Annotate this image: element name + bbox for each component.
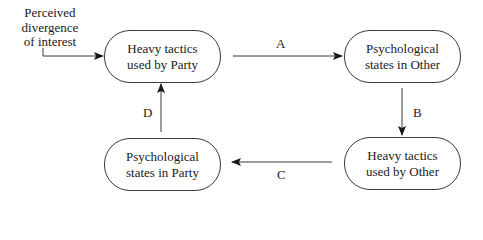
node-heavy-tactics-other: Heavy tactics used by Other [344, 137, 461, 190]
edge-label-a: A [276, 37, 285, 51]
edge-label-c: C [277, 168, 286, 182]
edge-label-d: D [143, 106, 152, 120]
node-psych-states-other: Psychological states in Other [344, 30, 461, 83]
node-heavy-tactics-party: Heavy tactics used by Party [104, 30, 221, 83]
node-psych-states-party: Psychological states in Party [104, 138, 221, 191]
node-text-line: Heavy tactics [127, 41, 198, 57]
node-text-line: used by Other [366, 164, 439, 180]
node-text-line: states in Other [365, 57, 440, 73]
node-text-line: Psychological [365, 41, 440, 57]
input-arrow [43, 48, 103, 56]
node-text-line: states in Party [126, 165, 199, 181]
node-text-line: used by Party [127, 57, 198, 73]
edge-label-b: B [413, 106, 422, 120]
node-text-line: Heavy tactics [366, 148, 439, 164]
node-text-line: Psychological [126, 149, 199, 165]
